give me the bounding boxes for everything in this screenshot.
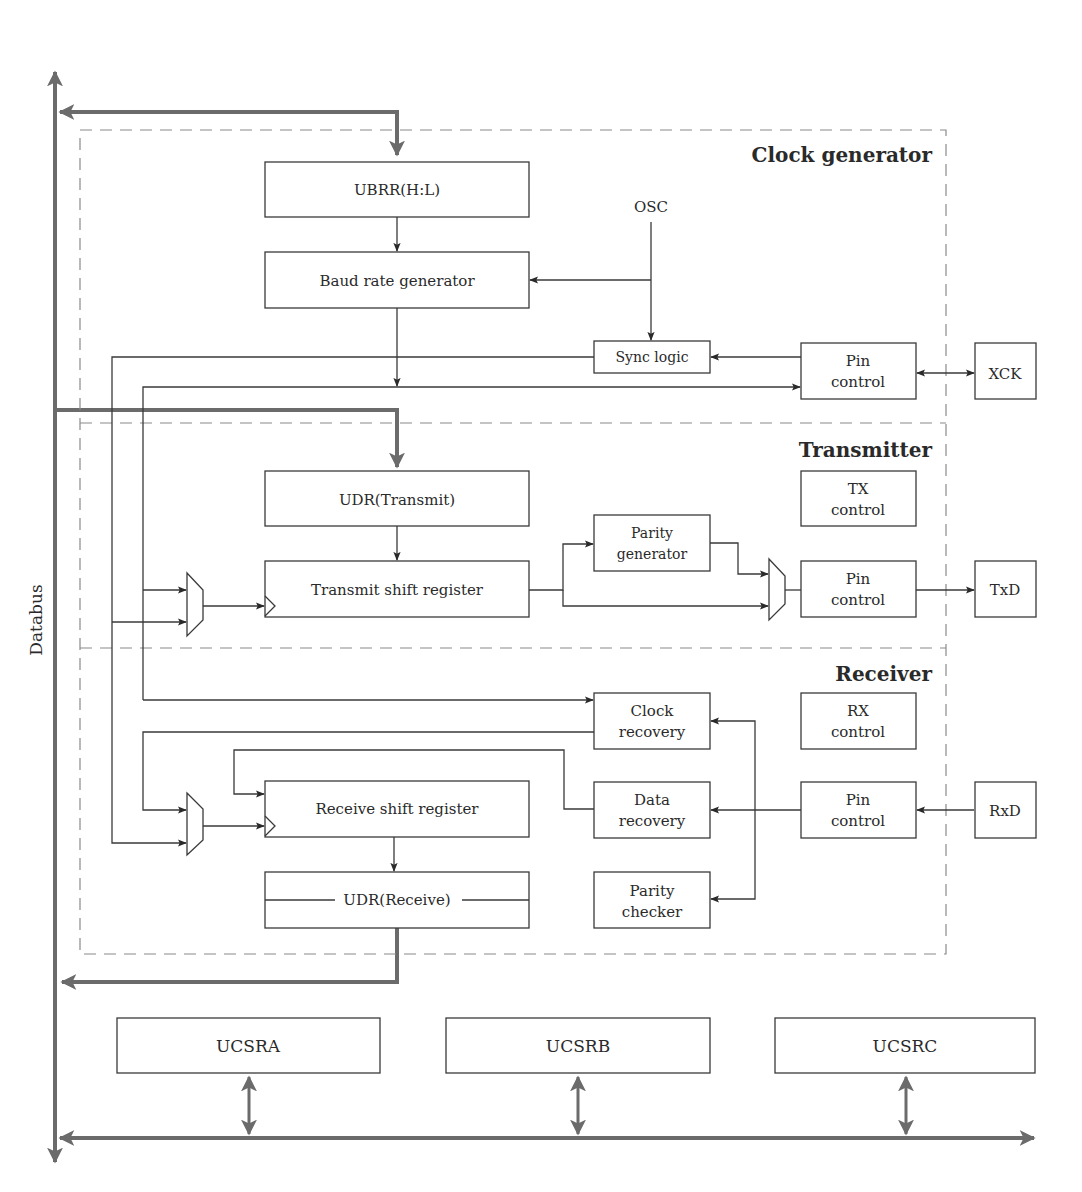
receive-shift-register-block: Receive shift register xyxy=(265,781,529,837)
osc-label: OSC xyxy=(634,198,668,216)
ucsrb-register: UCSRB xyxy=(446,1018,710,1073)
rx-control-label-2: control xyxy=(831,723,885,741)
data-recovery-label-2: recovery xyxy=(619,812,686,830)
section-title-clock-generator: Clock generator xyxy=(752,143,933,167)
rxd-label: RxD xyxy=(989,802,1021,820)
txd-pin-block: TxD xyxy=(975,561,1036,617)
ucsrb-label: UCSRB xyxy=(546,1036,610,1056)
parity-generator-block: Parity generator xyxy=(594,515,710,571)
tx-control-block: TX control xyxy=(801,471,916,526)
ucsrc-register: UCSRC xyxy=(775,1018,1035,1073)
databus: Databus xyxy=(26,72,55,1162)
baud-rate-generator-block: Baud rate generator xyxy=(265,252,529,308)
rx-pin-control-block: Pin control xyxy=(801,782,916,838)
rx-clock-mux xyxy=(187,793,203,855)
transmit-shift-register-label: Transmit shift register xyxy=(311,581,484,599)
usart-block-diagram: Databus Clock generator Transmitter Rece… xyxy=(0,0,1082,1192)
udr-receive-label: UDR(Receive) xyxy=(343,891,450,909)
tx-pin-control-label-1: Pin xyxy=(846,570,871,588)
clock-pin-control-label-1: Pin xyxy=(846,352,871,370)
ubrr-label: UBRR(H:L) xyxy=(354,181,440,199)
sync-logic-label: Sync logic xyxy=(616,349,689,365)
tx-control-label-1: TX xyxy=(848,480,869,498)
parity-checker-block: Parity checker xyxy=(594,872,710,928)
rxd-pin-block: RxD xyxy=(975,782,1036,838)
data-recovery-label-1: Data xyxy=(634,791,670,809)
udr-transmit-block: UDR(Transmit) xyxy=(265,471,529,526)
parity-generator-label-2: generator xyxy=(617,546,688,562)
tx-control-label-2: control xyxy=(831,501,885,519)
bus-udr-tx-connection xyxy=(57,410,397,467)
clock-recovery-label-2: recovery xyxy=(619,723,686,741)
rx-control-block: RX control xyxy=(801,693,916,749)
baud-rate-generator-label: Baud rate generator xyxy=(319,272,475,290)
section-title-transmitter: Transmitter xyxy=(799,438,933,462)
udr-transmit-label: UDR(Transmit) xyxy=(339,491,455,509)
xck-label: XCK xyxy=(988,365,1022,383)
udr-receive-block: UDR(Receive) xyxy=(265,872,529,928)
ubrr-block: UBRR(H:L) xyxy=(265,162,529,217)
rx-pin-control-label-1: Pin xyxy=(846,791,871,809)
parity-checker-label-1: Parity xyxy=(630,882,675,900)
data-recovery-block: Data recovery xyxy=(594,782,710,838)
clock-pin-control-label-2: control xyxy=(831,373,885,391)
clock-recovery-block: Clock recovery xyxy=(594,693,710,749)
clock-recovery-label-1: Clock xyxy=(631,702,675,720)
pin-to-parity-checker-arrow xyxy=(711,810,755,899)
receive-shift-register-label: Receive shift register xyxy=(315,800,479,818)
bus-udr-rx-connection xyxy=(62,928,397,982)
ucsra-register: UCSRA xyxy=(117,1018,380,1073)
ucsra-label: UCSRA xyxy=(216,1036,281,1056)
shift-to-tx-mux-arrow xyxy=(563,590,768,606)
sync-logic-block: Sync logic xyxy=(594,341,710,373)
parity-gen-to-mux-arrow xyxy=(710,543,768,574)
rx-pin-control-label-2: control xyxy=(831,812,885,830)
tx-clock-mux xyxy=(187,573,203,636)
clock-pin-control-block: Pin control xyxy=(801,343,916,399)
parity-checker-label-2: checker xyxy=(622,903,683,921)
tx-pin-control-label-2: control xyxy=(831,591,885,609)
ucsrc-label: UCSRC xyxy=(873,1036,938,1056)
tx-pin-control-block: Pin control xyxy=(801,561,916,617)
pin-to-clock-recovery-arrow xyxy=(711,721,755,810)
xck-pin-block: XCK xyxy=(975,343,1036,399)
txd-label: TxD xyxy=(990,581,1021,599)
section-title-receiver: Receiver xyxy=(835,662,932,686)
databus-label: Databus xyxy=(26,584,46,655)
bus-ubrr-connection xyxy=(60,112,397,155)
parity-generator-label-1: Parity xyxy=(631,525,673,541)
shift-to-parity-gen-arrow xyxy=(529,544,593,590)
tx-output-mux xyxy=(769,559,785,620)
rx-control-label-1: RX xyxy=(847,702,869,720)
transmit-shift-register-block: Transmit shift register xyxy=(265,561,529,617)
